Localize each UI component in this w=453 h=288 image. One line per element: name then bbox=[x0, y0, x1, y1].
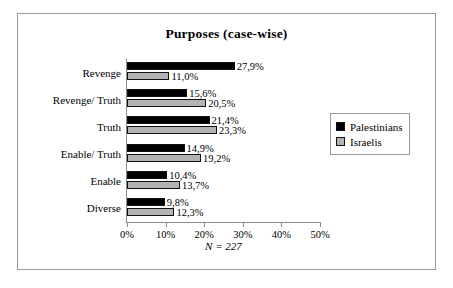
bar: 14,9% bbox=[127, 144, 185, 152]
legend-swatch-palestinians bbox=[336, 122, 345, 131]
bar: 11,0% bbox=[127, 72, 169, 80]
legend-item-israelis: Israelis bbox=[336, 134, 403, 149]
x-tick-label: 50% bbox=[300, 229, 340, 240]
x-tick-mark bbox=[204, 223, 205, 227]
category-label: Revenge/ Truth bbox=[53, 94, 121, 106]
bar-value-label: 19,2% bbox=[203, 152, 230, 163]
bar: 12,3% bbox=[127, 208, 174, 216]
bar-group: Diverse9,8%12,3% bbox=[127, 195, 320, 222]
plot-area: 0%10%20%30%40%50% Revenge27,9%11,0%Reven… bbox=[127, 59, 320, 222]
bar: 20,5% bbox=[127, 99, 206, 107]
figure: Purposes (case-wise) 0%10%20%30%40%50% R… bbox=[0, 0, 453, 288]
bar-value-label: 20,5% bbox=[208, 98, 235, 109]
bar-value-label: 23,3% bbox=[219, 125, 246, 136]
x-tick-label: 40% bbox=[261, 229, 301, 240]
sample-size-note: N = 227 bbox=[127, 240, 320, 252]
x-axis-line bbox=[126, 222, 321, 223]
bar-value-label: 12,3% bbox=[176, 206, 203, 217]
bar-group: Truth21,4%23,3% bbox=[127, 113, 320, 140]
legend-swatch-israelis bbox=[336, 137, 345, 146]
x-tick-label: 0% bbox=[107, 229, 147, 240]
bar-group: Revenge/ Truth15,6%20,5% bbox=[127, 86, 320, 113]
bar-value-label: 11,0% bbox=[171, 71, 198, 82]
category-label: Diverse bbox=[87, 202, 121, 214]
category-label: Truth bbox=[97, 121, 121, 133]
bar: 21,4% bbox=[127, 116, 210, 124]
legend-label-palestinians: Palestinians bbox=[350, 121, 403, 133]
x-tick-mark bbox=[166, 223, 167, 227]
bar: 10,4% bbox=[127, 171, 167, 179]
category-label: Enable bbox=[90, 175, 121, 187]
x-tick-mark bbox=[320, 223, 321, 227]
chart-title: Purposes (case-wise) bbox=[17, 26, 436, 42]
bar-group: Enable10,4%13,7% bbox=[127, 168, 320, 195]
legend-label-israelis: Israelis bbox=[350, 136, 382, 148]
x-tick-label: 30% bbox=[223, 229, 263, 240]
bar: 9,8% bbox=[127, 198, 165, 206]
x-tick-mark bbox=[127, 223, 128, 227]
bar: 23,3% bbox=[127, 126, 217, 134]
bar-value-label: 13,7% bbox=[182, 179, 209, 190]
category-label: Enable/ Truth bbox=[61, 148, 121, 160]
bar-group: Enable/ Truth14,9%19,2% bbox=[127, 141, 320, 168]
x-tick-mark bbox=[243, 223, 244, 227]
bar-group: Revenge27,9%11,0% bbox=[127, 59, 320, 86]
x-tick-mark bbox=[281, 223, 282, 227]
category-label: Revenge bbox=[83, 67, 121, 79]
x-tick-label: 10% bbox=[146, 229, 186, 240]
bar: 13,7% bbox=[127, 181, 180, 189]
bar: 19,2% bbox=[127, 154, 201, 162]
legend: Palestinians Israelis bbox=[330, 113, 410, 155]
legend-item-palestinians: Palestinians bbox=[336, 119, 403, 134]
x-tick-label: 20% bbox=[184, 229, 224, 240]
bar-value-label: 27,9% bbox=[237, 61, 264, 72]
bar: 15,6% bbox=[127, 89, 187, 97]
bar: 27,9% bbox=[127, 62, 235, 70]
